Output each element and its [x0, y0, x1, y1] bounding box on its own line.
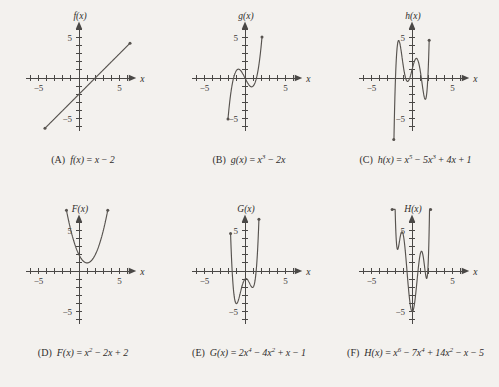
curve-endpoint-start: [390, 208, 393, 211]
x-tick-label-negative-five: −5: [200, 83, 210, 93]
caption-term: 4x: [447, 154, 456, 165]
x-tick-label-positive-five: 5: [117, 276, 122, 286]
caption-equals: =: [247, 154, 258, 165]
function-curve: [66, 210, 107, 263]
x-axis-label: x: [305, 267, 311, 277]
curve-endpoint-start: [65, 209, 68, 212]
x-axis-arrow: [129, 75, 137, 81]
caption-term: 14x2: [435, 347, 453, 358]
x-tick-label-positive-five: 5: [450, 276, 455, 286]
x-tick-label-positive-five: 5: [283, 83, 288, 93]
plot-d: −555−5xF(x): [3, 193, 163, 345]
panel-e: −555−5xG(x)(E) G(x) = 2x4 − 4x2 + x − 1: [166, 193, 332, 387]
y-tick-label-negative-five: −5: [228, 307, 238, 317]
caption-operator: −: [92, 347, 103, 358]
plot-area-a: −555−5xf(x): [3, 0, 163, 152]
caption-term: 1: [301, 347, 306, 358]
caption-d: (D) F(x) = x2 − 2x + 2: [38, 347, 128, 359]
plot-a: −555−5xf(x): [3, 0, 163, 152]
caption-equals: =: [383, 347, 394, 358]
y-tick-label-negative-five: −5: [62, 114, 72, 124]
caption-term: 5: [479, 347, 484, 358]
curve-endpoint-end: [429, 208, 432, 211]
caption-operator: −: [401, 347, 412, 358]
caption-operator: −: [412, 154, 423, 165]
caption-function-name: h(x): [378, 154, 394, 165]
caption-term: 2x4: [239, 347, 252, 358]
caption-term: 1: [467, 154, 472, 165]
caption-tag: (B): [212, 154, 230, 165]
x-axis-arrow: [461, 268, 469, 274]
caption-term: 2: [110, 154, 115, 165]
polynomial-graphs-figure: −555−5xf(x)(A) f(x) = x − 2−555−5xg(x)(B…: [0, 0, 499, 387]
x-axis-arrow: [461, 75, 469, 81]
plot-area-e: −555−5xG(x): [169, 193, 329, 345]
x-tick-label-negative-five: −5: [366, 276, 376, 286]
caption-tag: (C): [359, 154, 377, 165]
plot-f: −555−5xH(x): [336, 193, 496, 345]
caption-equals: =: [228, 347, 239, 358]
curve-endpoint-end: [129, 42, 132, 45]
caption-b: (B) g(x) = x3 − 2x: [212, 154, 285, 166]
plot-c: −555−5xh(x): [336, 0, 496, 152]
caption-f: (F) H(x) = x6 − 7x4 + 14x2 − x − 5: [347, 347, 484, 359]
caption-operator: −: [99, 154, 110, 165]
y-tick-label-negative-five: −5: [395, 307, 405, 317]
caption-operator: +: [275, 347, 286, 358]
y-axis-label: F(x): [71, 204, 88, 215]
curve-endpoint-start: [229, 232, 232, 235]
y-axis-arrow: [242, 22, 248, 30]
y-axis-arrow: [242, 215, 248, 223]
y-axis-label: g(x): [238, 11, 253, 22]
x-axis-arrow: [129, 268, 137, 274]
plot-b: −555−5xg(x): [169, 0, 329, 152]
x-tick-label-positive-five: 5: [450, 83, 455, 93]
curve-endpoint-end: [257, 218, 260, 221]
x-tick-label-positive-five: 5: [283, 276, 288, 286]
x-axis-label: x: [472, 74, 478, 84]
curve-endpoint-start: [226, 117, 229, 120]
y-tick-label-positive-five: 5: [400, 33, 405, 43]
x-tick-label-negative-five: −5: [366, 83, 376, 93]
x-tick-label-positive-five: 5: [117, 83, 122, 93]
x-tick-label-negative-five: −5: [34, 83, 44, 93]
caption-c: (C) h(x) = x5 − 5x3 + 4x + 1: [359, 154, 471, 166]
y-tick-label-negative-five: −5: [228, 114, 238, 124]
y-tick-label-negative-five: −5: [62, 307, 72, 317]
x-axis-label: x: [139, 74, 145, 84]
x-axis-label: x: [139, 267, 145, 277]
caption-function-name: g(x): [231, 154, 247, 165]
y-tick-label-positive-five: 5: [68, 33, 73, 43]
x-axis-arrow: [295, 75, 303, 81]
caption-equals: =: [74, 347, 85, 358]
caption-e: (E) G(x) = 2x4 − 4x2 + x − 1: [192, 347, 306, 359]
curve-endpoint-start: [43, 127, 46, 130]
caption-term: 2: [123, 347, 128, 358]
x-tick-label-negative-five: −5: [200, 276, 210, 286]
panel-f: −555−5xH(x)(F) H(x) = x6 − 7x4 + 14x2 − …: [332, 193, 499, 387]
plot-area-f: −555−5xH(x): [336, 193, 496, 345]
caption-a: (A) f(x) = x − 2: [51, 154, 115, 166]
panel-c: −555−5xh(x)(C) h(x) = x5 − 5x3 + 4x + 1: [332, 0, 499, 193]
y-axis-arrow: [408, 215, 414, 223]
caption-operator: +: [456, 154, 467, 165]
function-curve: [393, 40, 428, 140]
caption-operator: −: [453, 347, 464, 358]
x-axis-arrow: [295, 268, 303, 274]
caption-term: 2x: [103, 347, 112, 358]
curve-endpoint-end: [106, 209, 109, 212]
y-axis-arrow: [76, 22, 82, 30]
y-tick-label-positive-five: 5: [234, 33, 239, 43]
function-curve: [392, 209, 430, 312]
caption-operator: −: [290, 347, 301, 358]
y-axis-label: G(x): [237, 204, 254, 215]
y-tick-label-positive-five: 5: [234, 226, 239, 236]
caption-function-name: H(x): [364, 347, 382, 358]
plot-area-b: −555−5xg(x): [169, 0, 329, 152]
caption-term: 4x2: [262, 347, 275, 358]
curve-endpoint-end: [427, 39, 430, 42]
caption-operator: +: [436, 154, 447, 165]
curve-endpoint-end: [261, 36, 264, 39]
caption-term: 2x: [276, 154, 285, 165]
caption-operator: +: [425, 347, 436, 358]
